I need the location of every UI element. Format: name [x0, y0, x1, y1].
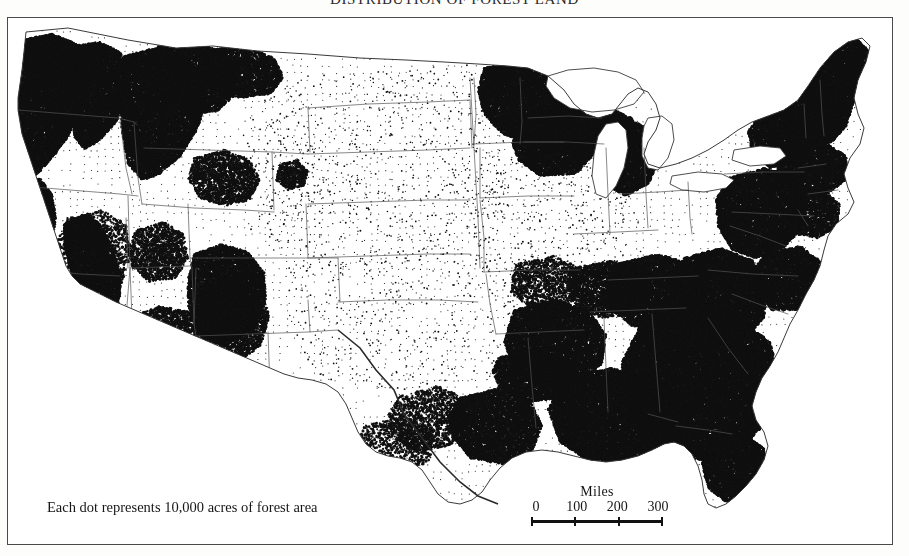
page-title: DISTRIBUTION OF FOREST LAND — [0, 0, 909, 8]
scale-bar: Miles 0 100 200 300 — [497, 484, 697, 526]
map-neatline — [7, 17, 893, 545]
scale-tick-300: 300 — [646, 499, 670, 515]
scale-bar-title: Miles — [497, 484, 697, 500]
scale-tick-200: 200 — [605, 499, 629, 515]
forest-dot-density-map — [8, 18, 892, 544]
scale-bar-rule — [531, 517, 663, 526]
legend-dot-note: Each dot represents 10,000 acres of fore… — [47, 499, 318, 516]
scale-tick-0: 0 — [524, 499, 548, 515]
scale-bar-labels: 0 100 200 300 — [524, 499, 670, 515]
scale-tick-100: 100 — [565, 499, 589, 515]
